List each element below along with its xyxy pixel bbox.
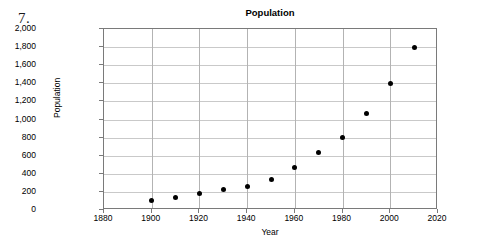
x-axis-tick-label: 1920	[173, 213, 223, 223]
gridline-vertical	[390, 29, 391, 208]
y-axis-tick-label: 2,000	[0, 23, 36, 33]
data-point	[173, 195, 178, 200]
x-axis-tick-label: 2020	[412, 213, 462, 223]
gridline-vertical	[247, 29, 248, 208]
x-axis-tick-mark	[389, 209, 390, 213]
data-point	[269, 177, 274, 182]
gridline-horizontal	[104, 174, 436, 175]
gridline-horizontal	[104, 65, 436, 66]
worksheet-page: 7. Population Population Year 0200400600…	[0, 0, 478, 251]
gridline-horizontal	[104, 101, 436, 102]
population-scatter-chart: Population Population Year 0200400600800…	[0, 0, 478, 251]
x-axis-tick-mark	[437, 209, 438, 213]
y-axis-tick-label: 600	[0, 150, 36, 160]
data-point	[245, 184, 250, 189]
x-axis-tick-mark	[103, 209, 104, 213]
x-axis-tick-label: 2000	[364, 213, 414, 223]
gridline-vertical	[199, 29, 200, 208]
y-axis-tick-label: 1,800	[0, 41, 36, 51]
data-point	[292, 165, 297, 170]
chart-title: Population	[103, 7, 437, 18]
gridline-horizontal	[104, 192, 436, 193]
x-axis-tick-mark	[151, 209, 152, 213]
x-axis-tick-label: 1960	[269, 213, 319, 223]
data-point	[412, 45, 417, 50]
x-axis-tick-label: 1940	[221, 213, 271, 223]
y-axis-tick-label: 400	[0, 168, 36, 178]
x-axis-tick-mark	[198, 209, 199, 213]
x-axis-tick-mark	[342, 209, 343, 213]
data-point	[197, 191, 202, 196]
x-axis-title: Year	[103, 227, 437, 237]
y-axis-tick-label: 1,600	[0, 59, 36, 69]
plot-area	[103, 28, 437, 209]
x-axis-tick-label: 1880	[78, 213, 128, 223]
y-axis-tick-label: 1,200	[0, 95, 36, 105]
data-point	[364, 111, 369, 116]
y-axis-tick-label: 800	[0, 132, 36, 142]
x-axis-tick-label: 1900	[126, 213, 176, 223]
gridline-vertical	[295, 29, 296, 208]
x-axis-tick-label: 1980	[317, 213, 367, 223]
y-axis-tick-label: 1,400	[0, 77, 36, 87]
gridline-horizontal	[104, 156, 436, 157]
gridline-horizontal	[104, 83, 436, 84]
data-point	[388, 81, 393, 86]
gridline-horizontal	[104, 47, 436, 48]
y-axis-tick-label: 0	[0, 204, 36, 214]
y-axis-title: Population	[52, 78, 62, 118]
y-axis-tick-label: 200	[0, 186, 36, 196]
data-point	[221, 187, 226, 192]
y-axis-tick-label: 1,000	[0, 114, 36, 124]
data-point	[340, 135, 345, 140]
x-axis-tick-mark	[246, 209, 247, 213]
x-axis-tick-mark	[294, 209, 295, 213]
gridline-horizontal	[104, 138, 436, 139]
data-point	[149, 198, 154, 203]
gridline-vertical	[152, 29, 153, 208]
gridline-vertical	[343, 29, 344, 208]
gridline-horizontal	[104, 120, 436, 121]
